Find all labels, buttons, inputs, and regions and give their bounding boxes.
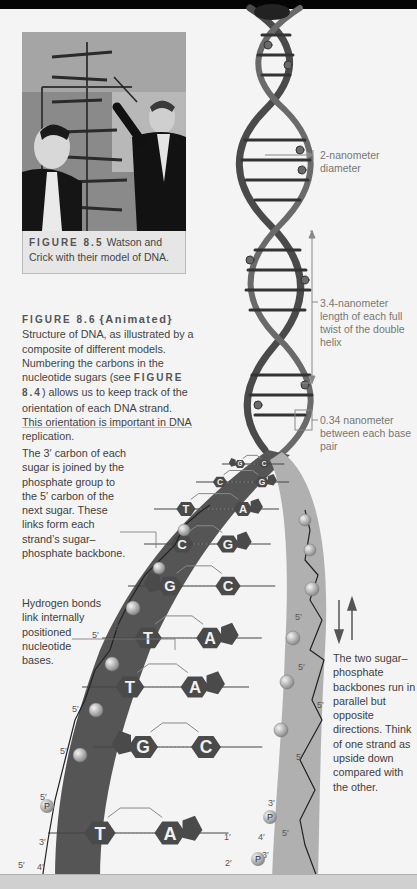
nucleotide-base-label: C — [217, 477, 223, 487]
nucleotide-base-label: A — [189, 678, 201, 697]
nucleotide-base-label: C — [200, 737, 213, 757]
bottom-border — [0, 874, 417, 889]
svg-text:3′: 3′ — [268, 798, 275, 808]
svg-text:5′: 5′ — [296, 752, 303, 762]
nucleotide-base-label: G — [223, 537, 233, 552]
nucleotide-base-label: G — [136, 737, 150, 757]
svg-text:3′: 3′ — [39, 837, 46, 847]
double-helix-model — [239, 4, 312, 455]
nucleotide-base-label: A — [204, 629, 216, 647]
svg-text:P: P — [267, 812, 273, 822]
nucleotide-base-label: C — [177, 537, 187, 552]
twist-length-label: 3.4-nanometer length of each full twist … — [320, 297, 415, 349]
svg-text:5′: 5′ — [282, 828, 289, 838]
svg-text:2′: 2′ — [225, 858, 232, 868]
backbone-note: The 3′ carbon of each sugar is joined by… — [22, 446, 132, 560]
diameter-label: 2-nanometer diameter — [320, 149, 415, 175]
hydrogen-bonds-note: Hydrogen bonds link internally positione… — [22, 596, 102, 667]
svg-text:P: P — [44, 801, 50, 811]
nucleotide-base-label: A — [239, 503, 247, 515]
antiparallel-note: The two sugar–phosphate backbones run in… — [333, 651, 417, 794]
svg-text:3′: 3′ — [93, 677, 100, 687]
nucleotide-base-label: G — [238, 460, 243, 467]
nucleotide-base-label: C — [262, 460, 267, 467]
svg-text:4′: 4′ — [258, 832, 265, 842]
svg-text:1′: 1′ — [224, 832, 231, 842]
nucleotide-base-label: C — [223, 578, 234, 594]
svg-text:5′: 5′ — [295, 612, 302, 622]
nucleotide-base-label: G — [164, 578, 175, 594]
nucleotide-base-label: A — [163, 824, 176, 844]
antiparallel-arrows — [335, 598, 356, 642]
nucleotide-base-label: T — [143, 629, 153, 647]
svg-text:5′: 5′ — [317, 700, 324, 710]
svg-text:1′: 1′ — [68, 860, 75, 870]
svg-text:5′: 5′ — [18, 860, 25, 870]
svg-text:5′: 5′ — [60, 746, 67, 756]
nucleotide-base-label: T — [125, 678, 136, 697]
svg-text:3′: 3′ — [114, 622, 121, 632]
nucleotide-base-label: T — [94, 824, 105, 844]
nucleotide-base-label: G — [259, 477, 266, 487]
svg-text:2′: 2′ — [66, 837, 73, 847]
svg-text:5′: 5′ — [298, 662, 305, 672]
nucleotide-base-label: T — [183, 503, 190, 515]
svg-text:4′: 4′ — [37, 862, 44, 872]
svg-text:P: P — [255, 854, 261, 864]
svg-text:5′: 5′ — [72, 704, 79, 714]
svg-text:3′: 3′ — [75, 734, 82, 744]
base-pair-spacing-label: 0.34 nanometer between each base pair — [320, 414, 415, 453]
